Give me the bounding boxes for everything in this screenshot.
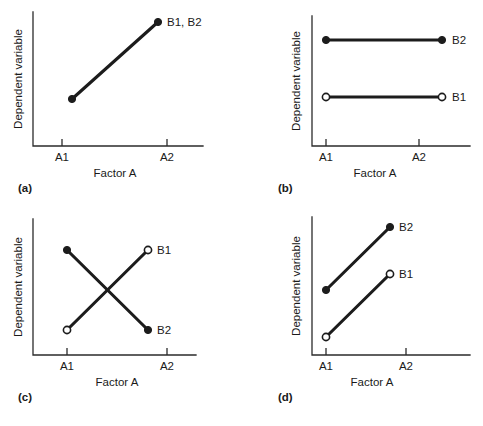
panel-a-tag-svg: (a) (0, 178, 242, 200)
panel-b-series-label-b1: B1 (452, 91, 466, 103)
panel-c-series-label-b2: B2 (157, 324, 171, 336)
panel-d-series-label-b2: B2 (399, 221, 413, 233)
panel-d-yaxis-title: Dependent variable (290, 236, 302, 336)
panel-d-axes (312, 217, 470, 355)
panel-b-marker-b2-a2 (438, 36, 445, 43)
panel-d-marker-b1-a2 (386, 270, 393, 277)
panel-b-plot: A1 A2 Factor A Dependent variable B2 B1 (242, 0, 483, 205)
panel-d-xtick-label-a2: A2 (399, 360, 413, 372)
panel-a-series-b1b2-line (72, 22, 158, 99)
panel-b-marker-b2-a1 (322, 36, 329, 43)
panel-b-tag: (b) (278, 182, 293, 194)
panel-d-tag: (d) (278, 391, 293, 403)
interaction-plots-figure: A1 A2 Factor A Dependent variable B1, B2… (0, 0, 483, 426)
panel-a-xtick-label-a2: A2 (160, 151, 174, 163)
panel-c: A1 A2 Factor A Dependent variable B1 B2 … (0, 205, 242, 405)
panel-c-marker-b2-a2 (144, 326, 151, 333)
panel-b-marker-b1-a1 (322, 93, 329, 100)
panel-d-plot: A1 A2 Factor A Dependent variable B2 B1 (242, 205, 483, 405)
panel-d-marker-b2-a2 (386, 223, 393, 230)
panel-c-marker-b1-a1 (63, 326, 70, 333)
panel-b-marker-b1-a2 (438, 93, 445, 100)
panel-b-tag-svg: (b) (242, 178, 483, 200)
panel-b-xtick-label-a2: A2 (412, 151, 426, 163)
panel-d-marker-b1-a1 (322, 333, 329, 340)
panel-d-series-label-b1: B1 (399, 268, 413, 280)
panel-d-series-b1-line (326, 274, 390, 337)
panel-c-yaxis-title: Dependent variable (12, 237, 24, 337)
panel-c-tag-svg: (c) (0, 387, 242, 408)
panel-b-axes (312, 16, 470, 146)
panel-b: A1 A2 Factor A Dependent variable B2 B1 … (242, 0, 483, 205)
panel-a-yaxis-title: Dependent variable (12, 29, 24, 129)
panel-b-xtick-label-a1: A1 (319, 151, 333, 163)
panel-a: A1 A2 Factor A Dependent variable B1, B2… (0, 0, 242, 205)
panel-d: A1 A2 Factor A Dependent variable B2 B1 … (242, 205, 483, 405)
panel-b-series-label-b2: B2 (452, 34, 466, 46)
panel-a-marker-b1b2-a1 (68, 95, 75, 102)
panel-c-axes (33, 219, 196, 355)
panel-a-axes (33, 12, 203, 146)
panel-c-plot: A1 A2 Factor A Dependent variable B1 B2 (0, 205, 242, 405)
panel-c-series-label-b1: B1 (157, 244, 171, 256)
panel-a-plot: A1 A2 Factor A Dependent variable B1, B2 (0, 0, 242, 205)
panel-c-marker-b2-a1 (63, 246, 70, 253)
panel-c-tag: (c) (18, 391, 32, 403)
panel-d-series-b2-line (326, 227, 390, 290)
panel-a-xtick-label-a1: A1 (55, 151, 69, 163)
panel-a-marker-b1b2-a2 (154, 18, 161, 25)
panel-d-tag-svg: (d) (242, 387, 483, 408)
panel-a-tag: (a) (18, 182, 32, 194)
panel-a-series-label-b1b2: B1, B2 (167, 16, 202, 28)
panel-c-marker-b1-a2 (144, 246, 151, 253)
panel-d-marker-b2-a1 (322, 286, 329, 293)
panel-d-xtick-label-a1: A1 (319, 360, 333, 372)
panel-b-yaxis-title: Dependent variable (290, 31, 302, 131)
panel-c-xtick-label-a1: A1 (60, 360, 74, 372)
panel-c-xtick-label-a2: A2 (160, 360, 174, 372)
